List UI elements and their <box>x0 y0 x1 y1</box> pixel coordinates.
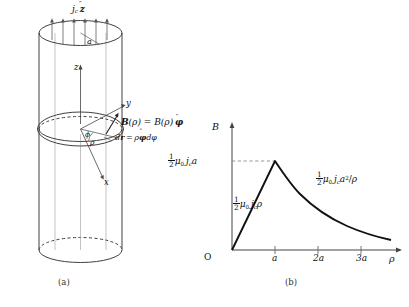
current-density-label: jc ẑ <box>72 5 85 15</box>
outer-curve-annotation: 12μ0 jca2/ρ <box>316 171 357 187</box>
cylinder-bottom-front-arc <box>39 250 122 263</box>
b-field-vector <box>106 116 117 134</box>
panel-a-caption: (a) <box>58 277 70 287</box>
x-axis-label: x <box>104 178 109 187</box>
plot-xtick-3a: 3a <box>356 254 367 263</box>
panel-b-plot <box>205 0 409 307</box>
plot-xtick-2a: 2a <box>313 254 324 263</box>
rho-label: ρ <box>90 139 94 147</box>
inner-curve-annotation: 12μ0 jcρ <box>233 196 262 212</box>
physics-figure: jc ẑ a z y x ϕ ρ B(ρ) = B(ρ) φ̂ dr = ρφ… <box>0 0 409 307</box>
b-field-expression: B(ρ) = B(ρ) φ̂ <box>121 118 183 127</box>
plot-ylabel: B <box>212 122 219 132</box>
plot-xlabel: ρ <box>389 254 395 264</box>
y-axis-arrowhead <box>230 122 235 128</box>
z-axis-arrowhead <box>78 65 82 70</box>
z-axis-label: z <box>74 63 78 72</box>
x-axis-arrowhead <box>396 248 402 253</box>
line-element-expression: dr = ρφ̂dφ <box>115 133 157 142</box>
x-axis-line <box>81 129 103 176</box>
plot-axes <box>230 122 402 252</box>
plot-ytick-label: 12μ0 jca <box>168 153 197 169</box>
plot-xtick-a: a <box>272 254 277 263</box>
plot-origin-label: O <box>204 253 211 262</box>
y-axis-label: y <box>126 99 131 108</box>
panel-b-caption: (b) <box>285 277 297 287</box>
radius-label-a: a <box>87 38 92 46</box>
